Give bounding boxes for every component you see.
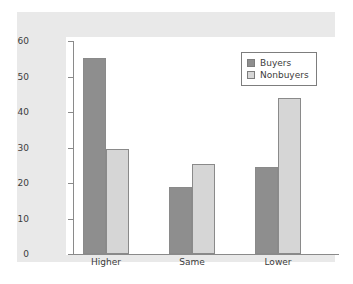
y-tick-label: 40 <box>18 108 29 117</box>
y-tick-label: 10 <box>18 215 29 224</box>
bar-same-buyers <box>169 187 192 254</box>
x-axis-line <box>73 254 339 255</box>
y-tick-mark <box>68 254 73 255</box>
figure-frame: 0102030405060 HigherSameLower BuyersNonb… <box>17 12 335 262</box>
chart-legend[interactable]: BuyersNonbuyers <box>241 52 317 86</box>
category-label-higher: Higher <box>63 258 149 267</box>
legend-swatch-icon <box>247 71 255 79</box>
y-tick-mark <box>68 112 73 113</box>
y-tick-label: 30 <box>18 144 29 153</box>
y-tick-label: 60 <box>18 37 29 46</box>
legend-item-buyers[interactable]: Buyers <box>247 57 309 69</box>
legend-label: Nonbuyers <box>260 71 309 80</box>
legend-item-nonbuyers[interactable]: Nonbuyers <box>247 69 309 81</box>
bar-lower-nonbuyers <box>278 98 301 254</box>
y-tick-mark <box>68 77 73 78</box>
y-tick-mark <box>68 219 73 220</box>
category-label-lower: Lower <box>235 258 321 267</box>
legend-swatch-icon <box>247 59 255 67</box>
y-tick-label: 50 <box>18 73 29 82</box>
y-tick-mark <box>68 41 73 42</box>
y-tick-mark <box>68 183 73 184</box>
y-tick-label: 20 <box>18 179 29 188</box>
category-label-same: Same <box>149 258 235 267</box>
y-tick-mark <box>68 148 73 149</box>
y-tick-label: 0 <box>23 250 29 259</box>
bar-lower-buyers <box>255 167 278 254</box>
bar-same-nonbuyers <box>192 164 215 254</box>
bar-higher-nonbuyers <box>106 149 129 254</box>
bar-higher-buyers <box>83 58 106 254</box>
y-axis-line <box>73 41 74 255</box>
legend-label: Buyers <box>260 59 291 68</box>
